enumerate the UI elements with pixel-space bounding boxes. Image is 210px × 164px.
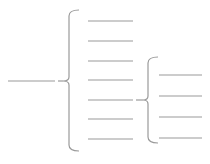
brace-diagram xyxy=(0,0,210,164)
level2-brace xyxy=(143,57,158,143)
level1-brace xyxy=(63,10,79,151)
